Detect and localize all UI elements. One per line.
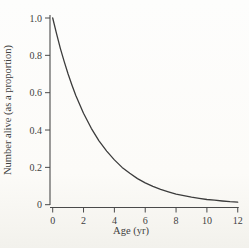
x-tick-label: 10 xyxy=(202,215,212,226)
survivorship-curve-figure: 00.20.40.60.81.0 024681012 Age (yr) Numb… xyxy=(0,0,249,248)
y-tick-label: 0.8 xyxy=(30,50,43,61)
x-axis-ticks: 024681012 xyxy=(50,208,243,226)
y-tick-label: 1.0 xyxy=(30,13,43,24)
x-axis-title: Age (yr) xyxy=(113,225,149,237)
y-tick-label: 0.6 xyxy=(30,87,43,98)
line-chart: 00.20.40.60.81.0 024681012 Age (yr) Numb… xyxy=(0,0,249,248)
y-tick-label: 0 xyxy=(37,199,42,210)
x-tick-label: 0 xyxy=(50,215,55,226)
x-tick-label: 2 xyxy=(81,215,86,226)
y-axis-ticks: 00.20.40.60.81.0 xyxy=(30,13,51,211)
x-tick-label: 6 xyxy=(143,215,148,226)
x-tick-label: 4 xyxy=(112,215,117,226)
survivorship-curve xyxy=(53,18,238,202)
x-tick-label: 12 xyxy=(233,215,243,226)
y-axis-title: Number alive (as a proportion) xyxy=(2,44,14,175)
x-tick-label: 8 xyxy=(174,215,179,226)
y-tick-label: 0.4 xyxy=(30,125,43,136)
y-tick-label: 0.2 xyxy=(30,162,43,173)
